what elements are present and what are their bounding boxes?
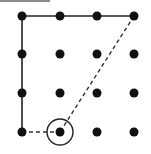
dashed-line	[60, 16, 134, 132]
grid-dot	[93, 128, 102, 137]
grid-dot	[130, 128, 139, 137]
grid-dot	[56, 50, 65, 59]
solid-line	[22, 16, 134, 132]
grid-dot	[93, 12, 102, 21]
grid-dot	[18, 128, 27, 137]
grid-dot	[18, 89, 27, 98]
solid-path	[22, 16, 134, 132]
grid-dot	[56, 89, 65, 98]
grid-dots	[18, 12, 139, 137]
grid-dot	[130, 12, 139, 21]
grid-dot	[130, 50, 139, 59]
dashed-path	[22, 16, 134, 132]
grid-dot	[93, 89, 102, 98]
grid-dot	[93, 50, 102, 59]
dot-grid-diagram	[0, 0, 151, 154]
grid-dot	[18, 50, 27, 59]
grid-dot	[56, 12, 65, 21]
grid-dot	[56, 128, 65, 137]
grid-dot	[130, 89, 139, 98]
grid-dot	[18, 12, 27, 21]
